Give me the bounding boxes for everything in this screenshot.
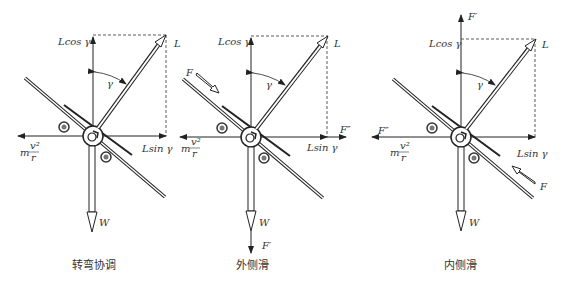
- velocity-label: v²: [400, 140, 410, 151]
- weight-label: W: [469, 217, 480, 228]
- velocity-label: v²: [30, 140, 40, 151]
- sideslip-force-label: F: [539, 181, 548, 192]
- side-force-label: F″: [377, 125, 389, 136]
- mass-label: m: [181, 143, 190, 154]
- panel-outer-sideslip: Lcos γ L γ Lsin γ F″ F m v² r W F′ 外侧滑: [180, 36, 351, 272]
- lsin-label: Lsin γ: [306, 142, 338, 153]
- lift-label: L: [173, 38, 181, 49]
- caption-coordinated-turn: 转弯协调: [72, 258, 116, 272]
- lift-label: L: [541, 39, 549, 50]
- lcos-label: Lcos γ: [428, 38, 462, 49]
- mass-label: m: [390, 147, 399, 158]
- sideslip-force-label: F: [185, 67, 194, 78]
- gamma-label: γ: [477, 79, 483, 90]
- gamma-label: γ: [266, 79, 272, 90]
- lsin-label: Lsin γ: [516, 148, 548, 159]
- vertical-force-label: F′: [261, 240, 272, 251]
- side-force-label: F″: [339, 124, 351, 135]
- weight-label: W: [99, 217, 110, 228]
- force-diagram: Lcos γ L γ Lsin γ m v² r W 转弯协调 Lcos γ L…: [0, 0, 565, 287]
- gamma-label: γ: [107, 78, 113, 89]
- lsin-label: Lsin γ: [141, 143, 173, 154]
- mass-label: m: [20, 147, 29, 158]
- radius-label: r: [192, 148, 198, 159]
- weight-label: W: [259, 217, 270, 228]
- panel-inner-sideslip: F′ Lcos γ L γ Lsin γ F″ F m v² r W 内侧滑: [372, 11, 549, 272]
- radius-label: r: [401, 152, 407, 163]
- radius-label: r: [31, 152, 37, 163]
- lcos-label: Lcos γ: [57, 36, 91, 47]
- caption-outer-sideslip: 外侧滑: [236, 259, 269, 272]
- lift-label: L: [333, 38, 341, 49]
- panel-coordinated-turn: Lcos γ L γ Lsin γ m v² r W 转弯协调: [18, 35, 181, 272]
- lcos-label: Lcos γ: [217, 36, 251, 47]
- caption-inner-sideslip: 内侧滑: [444, 258, 477, 272]
- velocity-label: v²: [191, 136, 201, 147]
- vertical-force-label: F′: [467, 11, 478, 22]
